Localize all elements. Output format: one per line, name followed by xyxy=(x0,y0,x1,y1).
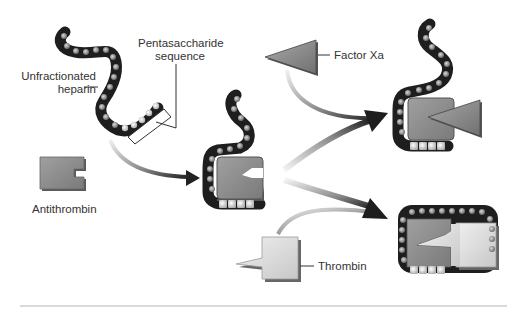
heparin-antithrombin-complex xyxy=(207,95,264,208)
label-antithrombin: Antithrombin xyxy=(32,203,97,216)
label-pentasaccharide-sequence: Pentasaccharide sequence xyxy=(138,37,222,63)
heparin-antithrombin-thrombin-complex xyxy=(398,205,499,274)
label-heparin: heparin xyxy=(18,83,96,96)
label-sequence: sequence xyxy=(138,50,222,63)
label-unfractionated: Unfractionated xyxy=(18,70,96,83)
label-pentasaccharide: Pentasaccharide xyxy=(138,37,222,50)
arrow-complex-to-xa-complex xyxy=(284,110,388,170)
label-unfractionated-heparin: Unfractionated heparin xyxy=(18,70,96,96)
label-thrombin: Thrombin xyxy=(318,260,367,273)
thrombin-shape xyxy=(236,237,314,282)
heparin-antithrombin-factor-xa-complex xyxy=(397,24,482,150)
pentasaccharide-bracket xyxy=(128,64,176,144)
factor-xa-shape xyxy=(265,40,330,76)
antithrombin-shape xyxy=(40,157,86,191)
heparin-mechanism-diagram: Unfractionated heparin Pentasaccharide s… xyxy=(0,0,523,312)
arrow-heparin-to-complex xyxy=(110,140,190,177)
label-factor-xa: Factor Xa xyxy=(334,49,384,62)
